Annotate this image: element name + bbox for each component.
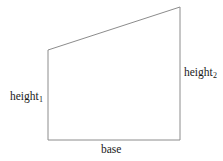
trapezoid-shape [0, 0, 223, 161]
label-base: base [101, 144, 121, 156]
label-height2-subscript: 2 [213, 71, 217, 80]
trapezoid-outline [48, 7, 180, 140]
label-height1-subscript: 1 [39, 95, 43, 104]
trapezoid-figure: height1 height2 base [0, 0, 223, 161]
label-height1-text: height [10, 90, 39, 102]
label-height2-text: height [184, 66, 213, 78]
label-height1: height1 [10, 91, 43, 103]
label-height2: height2 [184, 67, 217, 79]
